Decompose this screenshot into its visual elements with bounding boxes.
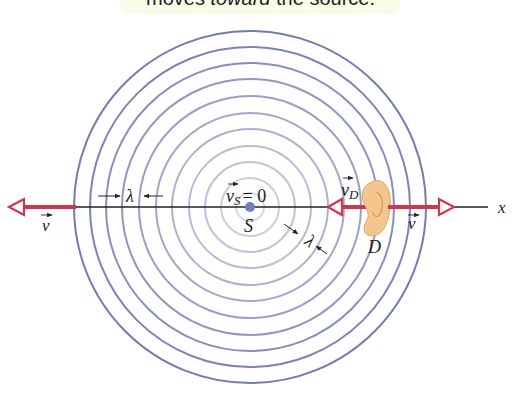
wavelength-arrow-diag-out	[316, 246, 327, 254]
doppler-diagram: x v λ vS= 0 S λ vD D v	[0, 0, 521, 395]
x-axis-label: x	[497, 198, 506, 217]
source-velocity-label: vS= 0	[226, 186, 266, 208]
wave-velocity-label-left: v	[42, 216, 50, 235]
wavelength-label-left: λ	[125, 186, 134, 206]
detector-label: D	[367, 237, 381, 257]
wave-velocity-arrow-right	[388, 199, 454, 215]
wave-velocity-label-right: v	[408, 214, 416, 233]
detector-velocity-label: vD	[341, 180, 359, 202]
source-label: S	[244, 216, 253, 236]
ear-icon	[362, 181, 390, 236]
wave-velocity-arrow-left	[9, 199, 76, 215]
